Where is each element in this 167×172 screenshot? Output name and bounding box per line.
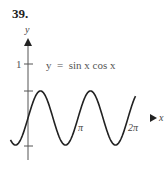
y-axis-label: y [24,24,30,35]
x-axis-label: x [158,112,164,123]
y-axis-arrow-icon [24,38,32,46]
y-tick-1: 1 [16,58,22,70]
equation-annotation: y = sin x cos x [46,59,116,71]
x-axis-arrow-icon [150,114,157,122]
x-tick-2pi: 2π [128,122,139,133]
x-tick-pi: π [78,122,84,133]
sine-cosine-graph: x y 1 π 2π y = sin x cos x [0,0,167,172]
